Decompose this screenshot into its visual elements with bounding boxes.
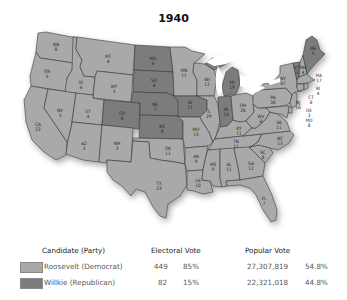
popular-percent: 54.8% (305, 262, 328, 271)
electoral-votes: 82 (158, 278, 167, 287)
electoral-percent: 15% (183, 278, 199, 287)
republican-swatch (20, 278, 43, 289)
candidate-name: Willkie (Republican) (44, 278, 115, 287)
header-popular-vote: Popular Vote (245, 246, 290, 255)
candidate-name: Roosevelt (Democrat) (44, 262, 123, 271)
header-candidate: Candidate (Party) (42, 246, 105, 255)
results-legend: Candidate (Party) Electoral Vote Popular… (0, 0, 347, 300)
democrat-swatch (20, 262, 43, 273)
popular-percent: 44.8% (305, 278, 328, 287)
electoral-percent: 85% (183, 262, 199, 271)
header-electoral-vote: Electoral Vote (151, 246, 201, 255)
popular-votes: 22,321,018 (247, 278, 288, 287)
electoral-votes: 449 (154, 262, 168, 271)
popular-votes: 27,307,819 (247, 262, 288, 271)
